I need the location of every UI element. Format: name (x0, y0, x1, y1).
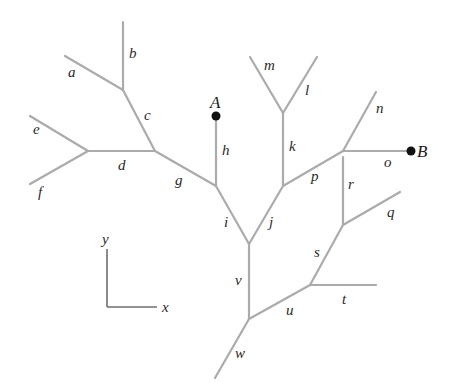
edge-label-n: n (376, 100, 384, 116)
edge-i (216, 186, 249, 244)
y-axis-label: y (100, 231, 109, 247)
x-axis-label: x (161, 299, 169, 315)
edge-label-w: w (235, 345, 245, 361)
edge-label-i: i (224, 214, 228, 230)
edge-label-j: j (267, 214, 273, 230)
edge-label-h: h (222, 142, 230, 158)
point-A-label: A (209, 93, 221, 112)
edge-label-m: m (264, 57, 275, 73)
edge-label-v: v (235, 272, 242, 288)
tree-diagram: abcdefghijklmnopqrstuvw x y AB (0, 0, 450, 386)
coordinate-axes: x y (100, 231, 169, 315)
edge-label-o: o (384, 154, 392, 170)
edge-label-q: q (387, 204, 395, 220)
edge-n (343, 92, 376, 151)
edge-label-f: f (38, 184, 44, 200)
edge-label-a: a (68, 64, 76, 80)
edge-label-p: p (310, 168, 319, 184)
edge-group (30, 22, 411, 378)
edge-label-u: u (286, 302, 294, 318)
edge-u (249, 285, 310, 319)
edge-label-k: k (289, 138, 296, 154)
edge-label-l: l (305, 82, 309, 98)
edge-label-d: d (118, 157, 126, 173)
edge-label-b: b (129, 45, 137, 61)
edge-label-s: s (314, 244, 320, 260)
point-A-marker (212, 112, 221, 121)
edge-f (30, 151, 88, 184)
point-B-label: B (417, 142, 428, 161)
edge-label-t: t (342, 291, 347, 307)
edge-label-r: r (348, 176, 354, 192)
edge-j (249, 186, 283, 244)
edge-g (155, 151, 216, 186)
edge-l (283, 57, 317, 113)
point-B-marker (407, 147, 416, 156)
edge-label-e: e (33, 121, 40, 137)
edge-label-c: c (144, 107, 151, 123)
edge-label-g: g (175, 172, 183, 188)
